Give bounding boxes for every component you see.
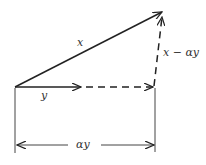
label-difference: x − αy	[163, 46, 200, 59]
label-y: y	[40, 89, 48, 102]
label-x: x	[77, 36, 84, 49]
vector-difference-dashed-arrow	[154, 17, 162, 86]
vector-x-arrow	[15, 12, 162, 87]
vector-diagram: x y x − αy αy	[0, 0, 206, 165]
label-dimension: αy	[76, 138, 90, 151]
